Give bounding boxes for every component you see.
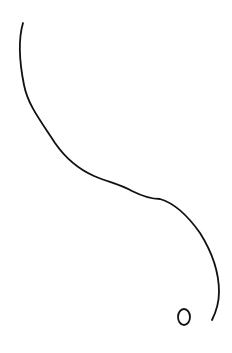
sketch-canvas [0, 0, 232, 353]
loop-stroke [178, 309, 190, 325]
sketch-drawing [0, 0, 232, 353]
curved-stroke [20, 23, 219, 320]
